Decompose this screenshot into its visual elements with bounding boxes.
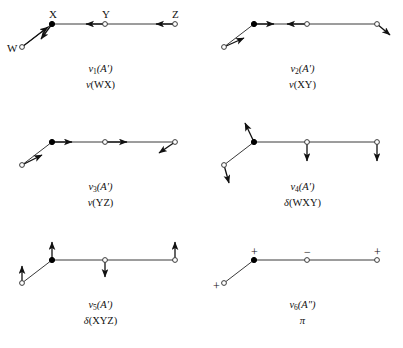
phase-sign-X: + xyxy=(251,246,258,258)
mode-caption-1: ν1(A′)ν(WX) xyxy=(0,62,201,91)
atom-X xyxy=(251,139,256,144)
internal-coordinate-label: ν(XY) xyxy=(202,78,403,91)
atom-Y xyxy=(103,258,108,263)
atom-label-X: X xyxy=(49,9,57,20)
atom-Y xyxy=(103,22,108,27)
atom-W xyxy=(20,163,25,168)
mode-panel-5: ν5(A′)δ(XYZ) xyxy=(0,236,201,348)
mode-symbol: ν1(A′) xyxy=(0,62,201,78)
bond-WX xyxy=(224,260,254,283)
atom-Z xyxy=(375,22,380,27)
atom-X xyxy=(49,21,54,26)
internal-coordinate-label: ν(WX) xyxy=(0,78,201,91)
bond-WX xyxy=(22,260,52,283)
internal-coordinate-label: π xyxy=(202,314,403,327)
mode-symbol: ν5(A′) xyxy=(0,298,201,314)
atom-label-Z: Z xyxy=(172,9,179,20)
atom-Y xyxy=(305,22,310,27)
atom-label-Y: Y xyxy=(102,9,110,20)
phase-sign-W: + xyxy=(213,280,220,292)
internal-coordinate-label: ν(YZ) xyxy=(0,196,201,209)
displacement-arrow-W xyxy=(22,27,48,47)
atom-Y xyxy=(103,140,108,145)
internal-coordinate-label: δ(WXY) xyxy=(202,196,403,209)
mode-panel-2: ν2(A′)ν(XY) xyxy=(202,0,403,116)
mode-caption-4: ν4(A′)δ(WXY) xyxy=(202,180,403,209)
internal-coordinate-label: δ(XYZ) xyxy=(0,314,201,327)
mode-symbol: ν6(A″) xyxy=(202,298,403,314)
vibrational-modes-figure: WXYZν1(A′)ν(WX)ν2(A′)ν(XY)ν3(A′)ν(YZ)ν4(… xyxy=(0,0,403,348)
mode-caption-5: ν5(A′)δ(XYZ) xyxy=(0,298,201,327)
atom-W xyxy=(222,45,227,50)
mode-panel-4: ν4(A′)δ(WXY) xyxy=(202,118,403,234)
atom-W xyxy=(222,163,227,168)
atom-label-W: W xyxy=(7,43,17,54)
mode-symbol: ν4(A′) xyxy=(202,180,403,196)
atom-W xyxy=(20,45,25,50)
mode-caption-2: ν2(A′)ν(XY) xyxy=(202,62,403,91)
atom-X xyxy=(49,257,54,262)
mode-symbol: ν2(A′) xyxy=(202,62,403,78)
atom-Z xyxy=(173,140,178,145)
atom-Z xyxy=(173,258,178,263)
mode-panel-3: ν3(A′)ν(YZ) xyxy=(0,118,201,234)
bond-WX xyxy=(224,142,254,165)
displacement-arrow-X xyxy=(245,123,254,142)
atom-W xyxy=(20,281,25,286)
mode-caption-3: ν3(A′)ν(YZ) xyxy=(0,180,201,209)
bond-WX xyxy=(224,24,254,47)
atom-W xyxy=(222,281,227,286)
mode-panel-1: WXYZν1(A′)ν(WX) xyxy=(0,0,201,116)
phase-sign-Z: + xyxy=(374,246,381,258)
atom-Y xyxy=(305,140,310,145)
atom-X xyxy=(49,139,54,144)
mode-caption-6: ν6(A″)π xyxy=(202,298,403,327)
mode-panel-6: ++−+ν6(A″)π xyxy=(202,236,403,348)
atom-X xyxy=(251,21,256,26)
bond-WX xyxy=(22,142,52,165)
phase-sign-Y: − xyxy=(304,246,311,258)
displacement-arrow-W xyxy=(22,155,42,165)
displacement-arrow-Z xyxy=(159,142,175,153)
atom-Z xyxy=(375,140,380,145)
mode-symbol: ν3(A′) xyxy=(0,180,201,196)
atom-Z xyxy=(173,22,178,27)
